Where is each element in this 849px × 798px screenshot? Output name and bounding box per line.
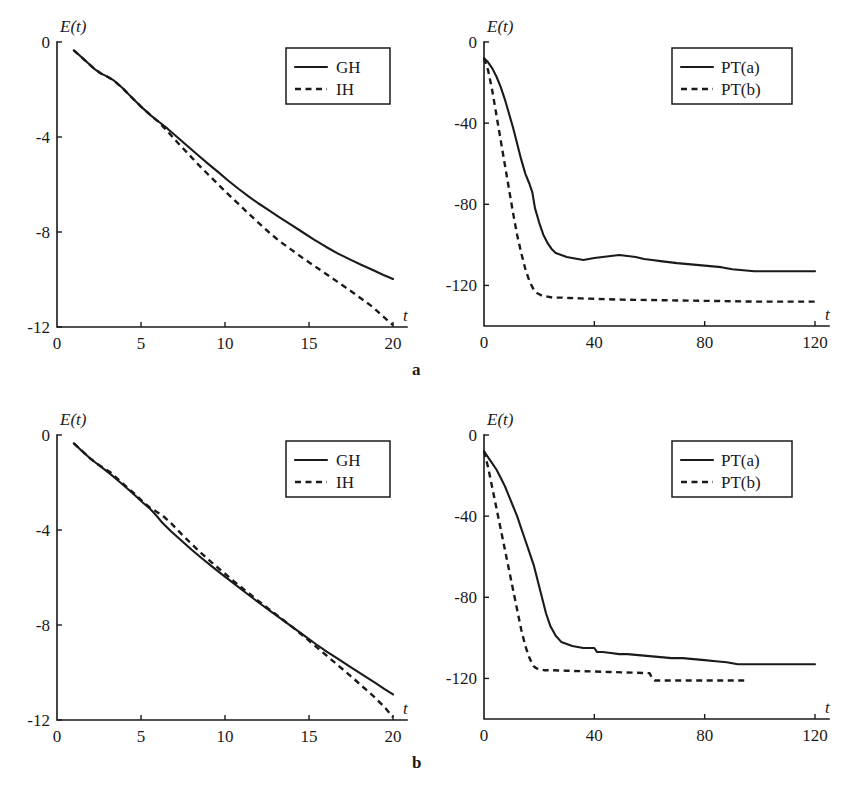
y-tick-label: -80	[454, 588, 477, 607]
x-tick-label: 120	[802, 726, 828, 745]
y-tick-label: 0	[42, 33, 51, 52]
x-axis-title: t	[403, 306, 409, 325]
x-tick-label: 10	[217, 727, 234, 746]
y-tick-label: 0	[469, 426, 478, 445]
legend-label-ptb: PT(b)	[721, 80, 761, 99]
x-tick-label: 20	[385, 727, 402, 746]
legend-label-ptb: PT(b)	[721, 473, 761, 492]
y-tick-label: 0	[42, 426, 51, 445]
legend-label-ih: IH	[336, 473, 354, 492]
chart-panel-a-right: 0-40-80-12004080120E(t)tPT(a)PT(b)	[425, 0, 849, 370]
plot-b-right: 0-40-80-12004080120E(t)tPT(a)PT(b)	[446, 410, 831, 745]
legend-label-gh: GH	[336, 58, 361, 77]
y-axis-title: E(t)	[486, 17, 514, 36]
x-tick-label: 0	[480, 333, 489, 352]
subfigure-label-a: a	[412, 360, 421, 380]
x-tick-label: 40	[586, 726, 603, 745]
chart-panel-b-left: 0-4-8-1205101520E(t)tGHIH	[0, 393, 430, 763]
chart-panel-b-right: 0-40-80-12004080120E(t)tPT(a)PT(b)	[425, 393, 849, 763]
x-axis-title: t	[825, 305, 831, 324]
x-tick-label: 0	[53, 334, 62, 353]
plot-b-left: 0-4-8-1205101520E(t)tGHIH	[27, 410, 409, 746]
legend-label-pta: PT(a)	[721, 58, 760, 77]
chart-panel-a-left: 0-4-8-1205101520E(t)tGHIH	[0, 0, 430, 370]
y-tick-label: -40	[454, 114, 477, 133]
y-tick-label: -8	[36, 616, 50, 635]
x-tick-label: 80	[696, 333, 713, 352]
x-tick-label: 15	[301, 727, 318, 746]
plot-a-right: 0-40-80-12004080120E(t)tPT(a)PT(b)	[446, 17, 831, 352]
chart-svg-a-right: 0-40-80-12004080120E(t)tPT(a)PT(b)	[425, 0, 849, 370]
x-tick-label: 10	[217, 334, 234, 353]
x-tick-label: 5	[137, 727, 146, 746]
y-axis-title: E(t)	[486, 410, 514, 429]
x-axis-title: t	[825, 698, 831, 717]
x-tick-label: 20	[385, 334, 402, 353]
y-tick-label: -40	[454, 507, 477, 526]
x-tick-label: 40	[586, 333, 603, 352]
y-tick-label: -120	[446, 276, 477, 295]
y-tick-label: -80	[454, 195, 477, 214]
chart-svg-b-left: 0-4-8-1205101520E(t)tGHIH	[0, 393, 430, 763]
x-tick-label: 0	[480, 726, 489, 745]
y-tick-label: -12	[27, 711, 50, 730]
figure-root: 0-4-8-1205101520E(t)tGHIH 0-40-80-120040…	[0, 0, 849, 798]
x-tick-label: 0	[53, 727, 62, 746]
y-tick-label: -120	[446, 669, 477, 688]
y-tick-label: -4	[36, 128, 51, 147]
x-tick-label: 15	[301, 334, 318, 353]
x-tick-label: 80	[696, 726, 713, 745]
plot-a-left: 0-4-8-1205101520E(t)tGHIH	[27, 17, 409, 353]
chart-svg-a-left: 0-4-8-1205101520E(t)tGHIH	[0, 0, 430, 370]
x-axis-title: t	[403, 699, 409, 718]
y-tick-label: 0	[469, 33, 478, 52]
y-axis-title: E(t)	[59, 17, 87, 36]
y-tick-label: -8	[36, 223, 50, 242]
x-tick-label: 120	[802, 333, 828, 352]
x-tick-label: 5	[137, 334, 146, 353]
y-axis-title: E(t)	[59, 410, 87, 429]
subfigure-label-b: b	[412, 753, 421, 773]
legend-label-ih: IH	[336, 80, 354, 99]
legend-label-gh: GH	[336, 451, 361, 470]
chart-svg-b-right: 0-40-80-12004080120E(t)tPT(a)PT(b)	[425, 393, 849, 763]
legend-label-pta: PT(a)	[721, 451, 760, 470]
y-tick-label: -4	[36, 521, 51, 540]
y-tick-label: -12	[27, 318, 50, 337]
